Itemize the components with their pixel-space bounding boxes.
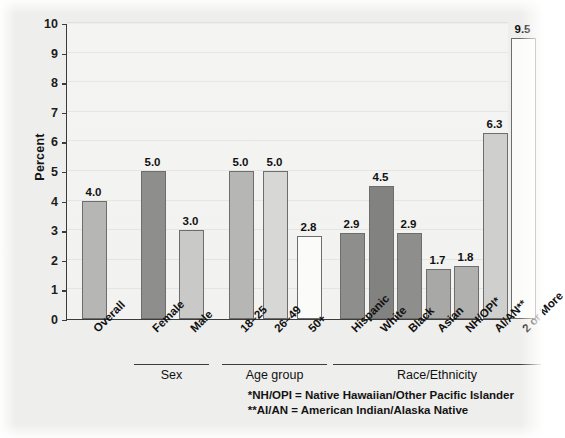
- y-axis-tick-mark: [62, 24, 67, 25]
- bar-value-label: 5.0: [233, 156, 249, 168]
- bar-value-label: 5.0: [145, 156, 161, 168]
- bar-26-49: [263, 171, 288, 319]
- y-axis-tick-9: 9: [18, 47, 58, 61]
- y-axis-tick-0: 0: [18, 313, 58, 327]
- footnotes: *NH/OPI = Native Hawaiian/Other Pacific …: [248, 388, 514, 417]
- y-axis-tick-7: 7: [18, 106, 58, 120]
- y-axis-tick-1: 1: [18, 283, 58, 297]
- y-axis-tick-mark: [62, 113, 67, 114]
- y-axis-tick-mark: [62, 290, 67, 291]
- bar-value-label: 1.7: [430, 254, 446, 266]
- bar-value-label: 1.8: [458, 251, 474, 263]
- bar-overall: [82, 201, 107, 319]
- bar-value-label: 3.0: [183, 215, 199, 227]
- y-axis-tick-3: 3: [18, 224, 58, 238]
- bar-value-label: 9.5: [515, 23, 531, 35]
- y-axis-tick-4: 4: [18, 195, 58, 209]
- group-label-race-ethnicity: Race/Ethnicity: [397, 368, 477, 382]
- y-axis-tick-mark: [62, 172, 67, 173]
- group-rule: [134, 364, 209, 365]
- bar-value-label: 2.8: [301, 221, 317, 233]
- footnote-nhopi: *NH/OPI = Native Hawaiian/Other Pacific …: [248, 388, 514, 403]
- bar-value-label: 5.0: [267, 156, 283, 168]
- gridline: [67, 81, 508, 82]
- bar-hispanic: [340, 233, 365, 319]
- y-axis-tick-5: 5: [18, 165, 58, 179]
- bar-50: [297, 236, 322, 319]
- y-axis-tick-10: 10: [18, 17, 58, 31]
- footnote-aian: **AI/AN = American Indian/Alaska Native: [248, 403, 514, 418]
- y-axis-tick-2: 2: [18, 254, 58, 268]
- bar-female: [141, 171, 166, 319]
- y-axis-tick-8: 8: [18, 76, 58, 90]
- bar-value-label: 6.3: [487, 118, 503, 130]
- y-axis-tick-mark: [62, 83, 67, 84]
- group-rule: [333, 364, 541, 365]
- y-axis-tick-mark: [62, 261, 67, 262]
- gridline: [67, 52, 508, 53]
- group-rule: [222, 364, 327, 365]
- y-axis-tick-6: 6: [18, 135, 58, 149]
- bar-value-label: 2.9: [401, 218, 417, 230]
- y-axis-tick-mark: [62, 231, 67, 232]
- bar-ai-an: [483, 133, 508, 319]
- gridline: [67, 22, 508, 23]
- y-axis-tick-mark: [62, 320, 67, 321]
- bar-18-25: [229, 171, 254, 319]
- y-axis-tick-mark: [62, 54, 67, 55]
- group-label-sex: Sex: [161, 368, 183, 382]
- bar-value-label: 4.0: [86, 186, 102, 198]
- y-axis-tick-mark: [62, 142, 67, 143]
- bar-2-or-more: [511, 38, 536, 319]
- y-axis-tick-mark: [62, 202, 67, 203]
- group-label-age-group: Age group: [246, 368, 304, 382]
- gridline: [67, 111, 508, 112]
- bar-value-label: 2.9: [344, 218, 360, 230]
- bar-value-label: 4.5: [373, 171, 389, 183]
- gridline: [67, 140, 508, 141]
- plot-area: [66, 24, 508, 320]
